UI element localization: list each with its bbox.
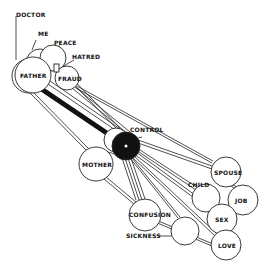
label-confusion: CONFUSION <box>129 211 171 218</box>
node-hatred <box>54 64 59 72</box>
label-spouse: SPOUSE <box>214 169 242 176</box>
label-me: ME <box>38 30 48 37</box>
label-sex: SEX <box>215 216 229 223</box>
label-doctor: DOCTOR <box>16 11 46 18</box>
label-fraud: FRAUD <box>58 75 82 82</box>
label-love: LOVE <box>218 242 236 249</box>
label-sickness: SICKNESS <box>126 232 161 239</box>
label-hatred: HATRED <box>72 53 100 60</box>
node-sickness <box>171 217 199 245</box>
label-mother: MOTHER <box>82 161 112 168</box>
label-job: JOB <box>235 197 248 204</box>
label-control: CONTROL <box>130 126 164 133</box>
nodes <box>12 45 258 260</box>
label-child: CHILD <box>188 181 209 188</box>
label-peace: PEACE <box>54 39 77 46</box>
label-father: FATHER <box>20 72 47 79</box>
